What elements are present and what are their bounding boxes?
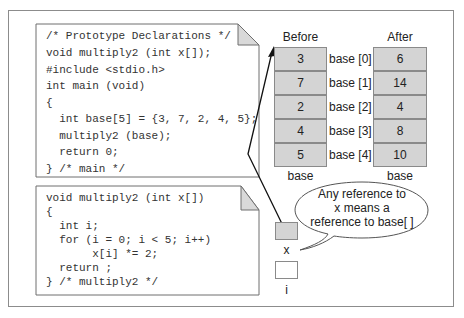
i-variable-box xyxy=(275,261,298,279)
fold-corner-icon xyxy=(238,24,259,45)
index-label: base [0] xyxy=(329,47,372,71)
before-heading: Before xyxy=(274,30,327,44)
code-line: void multiply2 (int x[]); xyxy=(46,47,211,60)
after-cell: 10 xyxy=(373,143,427,167)
code-line: /* Prototype Declarations */ xyxy=(46,30,231,43)
after-cell: 4 xyxy=(373,95,427,119)
i-variable-label: i xyxy=(275,283,298,297)
after-cell: 8 xyxy=(373,119,427,143)
code-line: } /* main */ xyxy=(46,163,125,176)
before-cell: 2 xyxy=(274,95,327,119)
code-line: for (i = 0; i < 5; i++) xyxy=(46,234,211,247)
code-line: x[i] *= 2; xyxy=(46,248,158,261)
after-cell: 14 xyxy=(373,71,427,95)
index-label: base [3] xyxy=(329,119,372,143)
before-cell: 5 xyxy=(274,143,327,167)
callout-line: reference to base[ ] xyxy=(300,215,424,229)
callout-line: x means a xyxy=(300,201,424,215)
code-line: { xyxy=(46,206,53,219)
code-line: void multiply2 (int x[]) xyxy=(46,192,204,205)
before-cell: 7 xyxy=(274,71,327,95)
before-footer: base xyxy=(274,169,327,183)
code-line: { xyxy=(46,97,53,110)
code-main: /* Prototype Declarations */ void multip… xyxy=(46,30,59,150)
after-heading: After xyxy=(373,30,427,44)
code-line: } /* multiply2 */ xyxy=(46,276,158,289)
code-line: return ; xyxy=(46,262,112,275)
callout-line: Any reference to xyxy=(300,187,424,201)
after-footer: base xyxy=(373,169,427,183)
code-line: int main (void) xyxy=(46,80,145,93)
code-line: return 0; xyxy=(46,146,119,159)
after-cell: 6 xyxy=(373,47,427,71)
code-line: #include <stdio.h> xyxy=(46,64,165,77)
index-label: base [4] xyxy=(329,143,372,167)
callout-text: Any reference to x means a reference to … xyxy=(300,187,424,229)
code-line: multiply2 (base); xyxy=(46,130,171,143)
index-label: base [2] xyxy=(329,95,372,119)
index-label: base [1] xyxy=(329,71,372,95)
code-func: void multiply2 (int x[]) { int i; for (i… xyxy=(46,192,59,288)
x-variable-box xyxy=(275,222,298,240)
code-line: int i; xyxy=(46,220,99,233)
code-line: int base[5] = {3, 7, 2, 4, 5}; xyxy=(46,113,257,126)
x-variable-label: x xyxy=(275,243,298,257)
before-cell: 3 xyxy=(274,47,327,71)
before-cell: 4 xyxy=(274,119,327,143)
fold-corner-icon xyxy=(241,186,259,210)
